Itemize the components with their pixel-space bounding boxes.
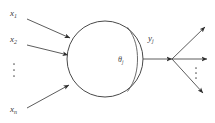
- output-vertical-ellipsis-icon: [195, 67, 197, 79]
- fanout-arrow-lower: [172, 59, 203, 93]
- neuron-diagram: x1 x2 xn θj yj: [0, 0, 215, 123]
- input-arrow-1: [27, 19, 70, 38]
- input-label-x1: x1: [9, 8, 17, 19]
- input-arrow-2: [27, 45, 68, 55]
- diagram-canvas: x1 x2 xn θj yj: [0, 0, 215, 123]
- input-arrow-n: [27, 85, 69, 108]
- input-label-x2: x2: [9, 34, 17, 45]
- input-label-x1-sub: 1: [14, 13, 17, 19]
- input-vertical-ellipsis-icon: [13, 63, 15, 77]
- threshold-label-sub: j: [121, 59, 124, 65]
- fanout-arrow-upper: [172, 27, 205, 59]
- output-label-sub: j: [151, 38, 154, 44]
- input-label-xn: xn: [9, 104, 17, 115]
- threshold-label-theta: θj: [118, 55, 124, 65]
- input-label-x2-sub: 2: [14, 39, 17, 45]
- input-label-xn-sub: n: [14, 109, 17, 115]
- output-label-yj: yj: [147, 33, 154, 44]
